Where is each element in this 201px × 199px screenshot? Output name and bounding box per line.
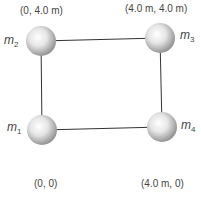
coord-m2: (0, 4.0 m) (20, 5, 63, 16)
edge-top (41, 38, 160, 41)
label-m4: m4 (181, 118, 195, 134)
label-m1: m1 (7, 120, 21, 136)
sphere-m3 (145, 23, 175, 53)
edge-bottom (42, 127, 162, 130)
coord-m1: (0, 0) (34, 178, 57, 189)
sphere-m4 (147, 112, 177, 142)
label-m3: m3 (180, 28, 194, 44)
sphere-m1 (27, 115, 57, 145)
label-m2: m2 (4, 33, 18, 49)
square-diagram (0, 0, 201, 199)
sphere-m2 (26, 26, 56, 56)
coord-m4: (4.0 m, 0) (141, 178, 184, 189)
square-edges (41, 38, 162, 130)
coord-m3: (4.0 m, 4.0 m) (125, 3, 187, 14)
